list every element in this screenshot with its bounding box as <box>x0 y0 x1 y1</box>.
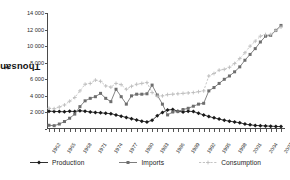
data-point-marker <box>249 53 252 56</box>
x-axis-tick-mark <box>49 129 50 132</box>
legend-marker-icon <box>118 159 138 166</box>
data-point-marker <box>109 112 113 116</box>
x-axis-tick-mark <box>255 129 256 132</box>
series-consumption <box>47 25 283 110</box>
data-point-marker <box>233 70 236 73</box>
x-axis-tick-mark <box>209 129 210 132</box>
x-axis-tick-mark <box>214 129 215 132</box>
x-axis-tick-label: 1971 <box>97 141 109 154</box>
x-axis-tick-mark <box>281 129 282 132</box>
data-point-marker <box>191 110 195 114</box>
data-point-marker <box>227 119 231 123</box>
data-point-marker <box>104 111 108 115</box>
x-axis-tick-label: 1998 <box>236 141 248 154</box>
data-point-marker <box>145 92 148 95</box>
legend-item-production[interactable]: Production <box>29 159 85 166</box>
data-point-marker <box>84 99 87 102</box>
data-point-marker <box>197 90 201 94</box>
data-point-marker <box>48 124 51 127</box>
data-point-marker <box>228 74 231 77</box>
legend-marker-icon <box>29 159 49 166</box>
data-point-marker <box>218 82 221 85</box>
data-point-marker <box>99 92 102 95</box>
data-point-marker <box>73 113 76 116</box>
data-point-marker <box>124 87 128 91</box>
data-point-marker <box>166 113 169 116</box>
x-axis-tick-mark <box>70 129 71 132</box>
data-point-marker <box>114 82 118 86</box>
data-point-marker <box>264 124 268 128</box>
data-point-marker <box>181 91 185 95</box>
data-point-marker <box>78 105 81 108</box>
x-axis-tick-mark <box>271 129 272 132</box>
data-point-marker <box>206 160 210 164</box>
data-point-marker <box>124 115 128 119</box>
data-point-marker <box>166 93 170 97</box>
x-axis-tick-mark <box>80 129 81 132</box>
x-axis-tick-label: 1962 <box>50 141 62 154</box>
data-point-marker <box>37 160 41 164</box>
data-point-marker <box>135 93 138 96</box>
data-point-marker <box>151 84 154 87</box>
legend-label: Production <box>52 159 85 166</box>
x-axis-tick-mark <box>199 129 200 132</box>
data-point-marker <box>212 116 216 120</box>
data-point-marker <box>104 97 107 100</box>
data-point-marker <box>109 100 112 103</box>
data-point-marker <box>145 81 149 85</box>
data-point-marker <box>115 88 118 91</box>
x-axis-tick-mark <box>131 129 132 132</box>
x-axis-tick-mark <box>121 129 122 132</box>
data-point-marker <box>186 91 190 95</box>
data-point-marker <box>140 119 144 123</box>
x-axis-tick-mark <box>137 129 138 132</box>
x-axis-tick-mark <box>229 129 230 132</box>
data-point-marker <box>135 118 139 122</box>
x-axis-tick-label: 1986 <box>174 141 186 154</box>
data-point-marker <box>130 94 133 97</box>
data-point-marker <box>207 115 211 119</box>
legend-item-imports[interactable]: Imports <box>118 159 164 166</box>
x-axis-tick-label: 1983 <box>159 141 171 154</box>
data-point-marker <box>120 95 123 98</box>
legend-item-consumption[interactable]: Consumption <box>198 159 261 166</box>
data-point-marker <box>140 82 144 86</box>
x-axis-tick-label: 1980 <box>143 141 155 154</box>
data-point-marker <box>217 68 221 72</box>
data-point-marker <box>258 124 262 128</box>
x-axis-tick-mark <box>224 129 225 132</box>
data-point-marker <box>207 89 210 92</box>
x-axis-tick-mark <box>260 129 261 132</box>
data-point-marker <box>83 109 87 113</box>
data-point-marker <box>243 122 247 126</box>
data-point-marker <box>57 105 61 109</box>
y-axis-tick-mark <box>45 129 48 130</box>
data-point-marker <box>279 125 283 129</box>
line-chart: Thousands m3 14 00012 00010 0008 0006 00… <box>0 0 290 180</box>
series-imports <box>48 24 283 127</box>
x-axis-tick-mark <box>54 129 55 132</box>
x-axis-tick-label: 1995 <box>220 141 232 154</box>
data-point-marker <box>197 103 200 106</box>
data-point-marker <box>150 91 154 95</box>
data-point-marker <box>207 74 211 78</box>
chart-legend: ProductionImportsConsumption <box>0 155 290 169</box>
data-point-marker <box>53 124 56 127</box>
data-point-marker <box>238 65 241 68</box>
x-axis-tick-mark <box>90 129 91 132</box>
data-point-marker <box>248 123 252 127</box>
data-point-marker <box>222 118 226 122</box>
x-axis-tick-mark <box>250 129 251 132</box>
data-point-marker <box>88 82 92 86</box>
x-axis-tick-mark <box>235 129 236 132</box>
data-point-marker <box>114 113 118 117</box>
data-point-marker <box>253 123 257 127</box>
data-point-marker <box>127 161 130 164</box>
x-axis-tick-mark <box>152 129 153 132</box>
data-point-marker <box>197 111 201 115</box>
data-point-marker <box>217 117 221 121</box>
x-axis-tick-label: 1977 <box>128 141 140 154</box>
x-axis-tick-mark <box>204 129 205 132</box>
x-axis-tick-label: 1965 <box>66 141 78 154</box>
data-point-marker <box>94 95 97 98</box>
